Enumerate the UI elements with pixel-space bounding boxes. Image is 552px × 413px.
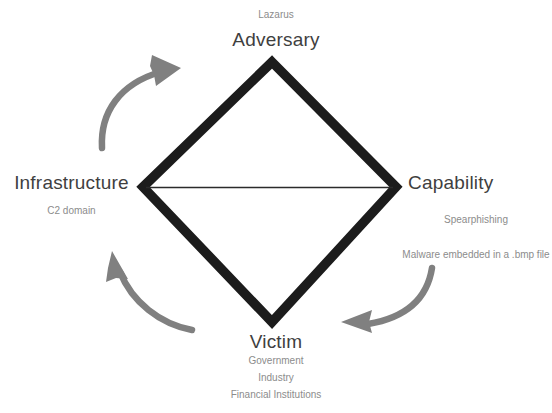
vertex-victim-detail-0: Government [0, 354, 552, 368]
vertex-capability: Capability Spearphishing Malware embedde… [400, 173, 552, 262]
vertex-adversary-label: Adversary [0, 30, 552, 49]
vertex-capability-label: Capability [400, 173, 552, 192]
vertex-victim: Victim Government Industry Financial Ins… [0, 332, 552, 401]
vertex-infrastructure-label: Infrastructure [0, 173, 143, 192]
diamond-model-diagram: Lazarus Adversary Infrastructure C2 doma… [0, 0, 552, 413]
vertex-victim-detail-1: Industry [0, 371, 552, 385]
vertex-capability-detail-0: Spearphishing [400, 213, 552, 227]
vertex-adversary: Lazarus Adversary [0, 8, 552, 49]
vertex-victim-detail-2: Financial Institutions [0, 388, 552, 402]
arrow-victim-to-infrastructure [106, 251, 192, 330]
vertex-capability-detail-1: Malware embedded in a .bmp file [400, 248, 552, 262]
vertex-victim-label: Victim [0, 332, 552, 351]
vertex-infrastructure-detail-0: C2 domain [0, 204, 143, 218]
vertex-infrastructure: Infrastructure C2 domain [0, 173, 143, 218]
arrow-infrastructure-to-adversary [102, 55, 181, 148]
arrow-capability-to-victim [341, 268, 432, 333]
vertex-adversary-detail-0: Lazarus [0, 8, 552, 22]
